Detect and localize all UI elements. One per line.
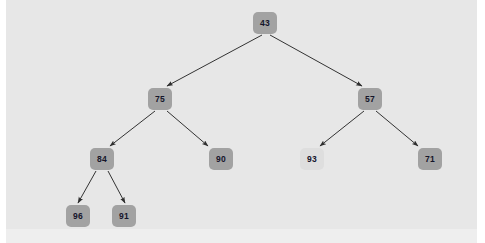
tree-node-90[interactable]: 90 bbox=[209, 148, 233, 170]
tree-node-93[interactable]: 93 bbox=[300, 148, 324, 170]
diagram-canvas: 437557849093719691 bbox=[0, 0, 485, 243]
tree-node-75[interactable]: 75 bbox=[148, 88, 172, 110]
tree-node-91[interactable]: 91 bbox=[112, 205, 136, 227]
tree-node-96[interactable]: 96 bbox=[66, 205, 90, 227]
tree-node-43[interactable]: 43 bbox=[253, 12, 277, 34]
tree-node-71[interactable]: 71 bbox=[418, 148, 442, 170]
tree-node-57[interactable]: 57 bbox=[358, 88, 382, 110]
tree-node-84[interactable]: 84 bbox=[90, 148, 114, 170]
